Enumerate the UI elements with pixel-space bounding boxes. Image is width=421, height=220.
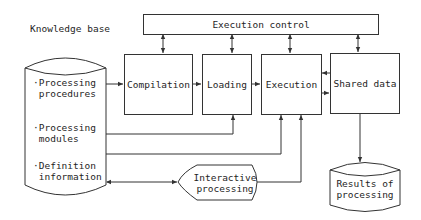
shared-data-box: Shared data [330,53,400,114]
kb-item-line: modules [39,133,79,144]
kb-item-definition-information: ·Definition information [33,160,102,182]
loading-label: Loading [203,79,251,90]
label-line: Results of [336,178,393,189]
label-line: processing [336,189,393,200]
compilation-label: Compilation [125,79,192,90]
kb-item-processing-procedures: ·Processing procedures [33,77,96,99]
execution-control-box: Execution control [143,14,379,35]
loading-box: Loading [202,54,252,115]
kb-item-line: Processing [39,122,96,133]
execution-control-label: Execution control [144,19,378,30]
label-line: Interactive [194,172,257,183]
label-line: processing [196,183,253,194]
knowledge-base-title: Knowledge base [30,23,110,34]
execution-label: Execution [262,79,321,90]
kb-item-line: Definition [39,160,96,171]
results-label: Results of processing [330,178,400,200]
kb-item-line: information [39,171,102,182]
interactive-processing-label: Interactive processing [190,172,260,194]
kb-item-processing-modules: ·Processing modules [33,122,96,144]
compilation-box: Compilation [124,54,193,115]
kb-item-line: Processing [39,77,96,88]
shared-data-label: Shared data [331,78,399,89]
execution-box: Execution [261,54,322,115]
kb-item-line: procedures [39,88,96,99]
